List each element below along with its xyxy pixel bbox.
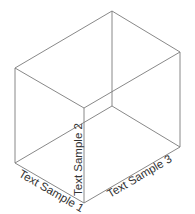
edge-top-right-front (84, 52, 180, 108)
isometric-box-diagram: Text Sample 1 Text Sample 2 Text Sample … (0, 0, 195, 214)
axis-label-2: Text Sample 2 (72, 123, 84, 196)
box-edges (15, 11, 180, 203)
edge-bottom-left-back (15, 106, 112, 163)
edge-top-left-back (15, 11, 112, 68)
edge-bottom-right-back (112, 106, 180, 147)
axis-label-3: Text Sample 3 (105, 152, 174, 199)
edge-top-left-front (15, 68, 84, 108)
edge-top-right-back (112, 11, 180, 52)
